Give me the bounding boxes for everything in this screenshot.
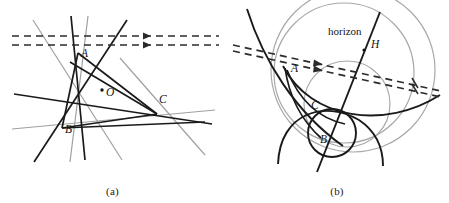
caption-panel-a: (a) <box>0 185 225 197</box>
label-a: A <box>80 47 89 59</box>
label-c: C <box>159 93 167 105</box>
geometry-figure: A B C O (a) <box>0 0 449 203</box>
label-horizon: horizon <box>328 25 362 37</box>
gray-line-4 <box>120 58 205 155</box>
panel-b-points <box>362 48 365 51</box>
panel-a-canvas: A B C O <box>0 0 225 203</box>
dashed-line-lower <box>233 51 441 97</box>
panel-b: horizon H A C B (b) <box>225 0 449 203</box>
caption-panel-b: (b) <box>225 185 449 197</box>
arrowhead-upper-icon <box>313 60 323 67</box>
panel-a-points <box>100 88 103 91</box>
label-a: A <box>290 62 299 74</box>
label-b: B <box>65 123 72 135</box>
arrowhead-upper-icon <box>143 33 151 40</box>
point-h-marker <box>362 48 365 51</box>
label-b: B <box>320 133 327 145</box>
arrowhead-lower-icon <box>143 42 151 49</box>
panel-b-canvas: horizon H A C B <box>225 0 449 203</box>
label-h: H <box>370 38 380 50</box>
point-o-marker <box>100 88 103 91</box>
label-o: O <box>106 86 115 98</box>
label-c: C <box>311 99 319 111</box>
panel-a: A B C O (a) <box>0 0 225 203</box>
panel-b-gray-circles <box>271 0 435 152</box>
